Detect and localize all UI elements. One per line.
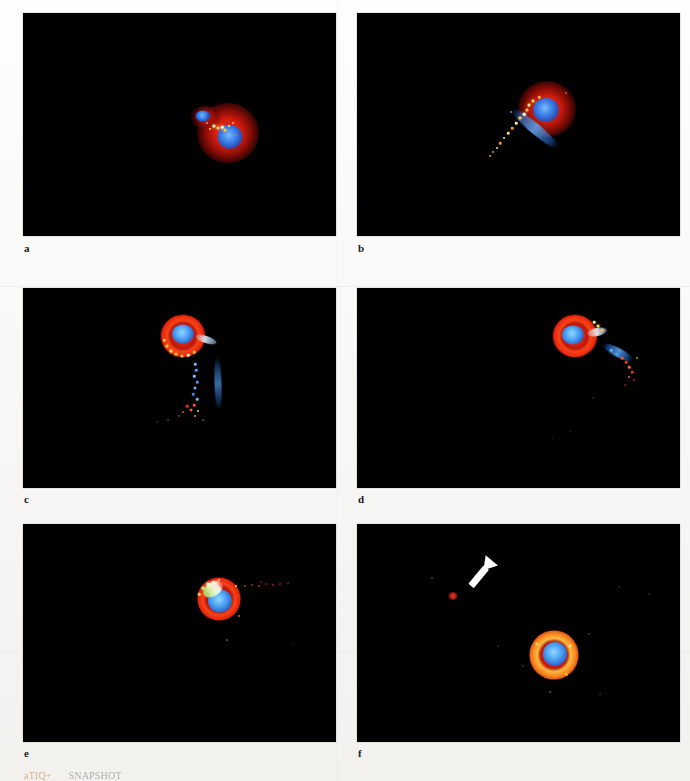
panel-f-field [357, 524, 680, 742]
punctum [489, 155, 491, 157]
punctum [631, 371, 634, 374]
punctum [196, 381, 199, 384]
punctum [592, 397, 594, 399]
punctum [178, 415, 180, 417]
punctum [258, 585, 260, 587]
punctum [194, 387, 197, 390]
panel-a-field [23, 13, 336, 236]
punctum [597, 325, 600, 328]
punctum [526, 109, 529, 112]
punctum [228, 125, 230, 127]
punctum [197, 410, 199, 412]
punctum [507, 132, 510, 135]
punctum [618, 586, 620, 588]
punctum [499, 142, 502, 145]
punctum [167, 419, 169, 421]
panel-e [23, 524, 336, 742]
punctum [190, 409, 193, 412]
arrow-marked-punctum [449, 592, 458, 600]
punctum [279, 583, 281, 585]
caption-rest: SNAPSHOT [68, 770, 121, 781]
punctum [610, 349, 613, 352]
punctum [532, 100, 535, 103]
punctum [538, 96, 541, 99]
punctum [511, 127, 514, 130]
punctum [628, 366, 631, 369]
punctum [588, 633, 590, 635]
punctum [593, 321, 596, 324]
punctum [621, 357, 624, 360]
panel-e-label: e [24, 748, 29, 759]
punctum [202, 419, 204, 421]
panel-c-field [23, 288, 336, 488]
punctum [213, 125, 216, 128]
migration-trail [214, 356, 223, 410]
punctum [186, 405, 189, 408]
punctum [569, 645, 572, 648]
punctum [624, 384, 626, 386]
punctum [244, 585, 246, 587]
punctum [196, 398, 199, 401]
punctum [601, 329, 604, 332]
punctum [232, 122, 234, 124]
nucleus-blue [218, 125, 243, 149]
punctum [163, 339, 166, 342]
punctum [552, 437, 554, 439]
punctum [193, 351, 196, 354]
panel-d [357, 288, 680, 488]
punctum [235, 585, 237, 587]
punctum [519, 117, 522, 120]
punctum [181, 355, 184, 358]
punctum [217, 127, 220, 130]
arrow-annotation [449, 550, 505, 606]
caption-cropped-text: aTIQ+ SNAPSHOT [24, 770, 122, 781]
punctum [221, 126, 224, 129]
punctum [224, 129, 227, 132]
punctum [633, 379, 635, 381]
panel-a [23, 13, 336, 236]
nucleus-blue [562, 326, 584, 345]
nucleus-blue [543, 642, 567, 666]
panel-f [357, 524, 680, 742]
panel-a-label: a [24, 243, 30, 254]
caption-strip: aTIQ+ SNAPSHOT [0, 770, 690, 781]
neighbour-cell [190, 106, 220, 128]
punctum [431, 577, 433, 579]
punctum [628, 376, 630, 378]
nucleus-blue [172, 325, 194, 344]
punctum [193, 375, 196, 378]
punctum [193, 404, 196, 407]
figure-panel-grid: a b [0, 0, 690, 781]
punctum [235, 134, 237, 136]
punctum [187, 354, 190, 357]
punctum [565, 92, 567, 94]
punctum [648, 593, 650, 595]
scan-seam [337, 0, 338, 781]
punctum [515, 122, 518, 125]
punctum [212, 581, 215, 584]
panel-b [357, 13, 680, 236]
punctum [492, 151, 494, 153]
punctum [202, 587, 205, 590]
punctum [156, 421, 158, 423]
punctum [549, 691, 551, 693]
panel-d-field [357, 288, 680, 488]
punctum [182, 411, 184, 413]
punctum [218, 579, 220, 581]
punctum [195, 369, 198, 372]
punctum [251, 584, 253, 586]
punctum [636, 357, 638, 359]
punctum [599, 693, 601, 695]
scan-seam [0, 286, 690, 287]
punctum [175, 353, 178, 356]
punctum [522, 665, 524, 667]
panel-e-field [23, 524, 336, 742]
punctum [565, 673, 568, 676]
punctum [528, 104, 531, 107]
punctum [287, 582, 289, 584]
punctum [625, 361, 628, 364]
panel-c [23, 288, 336, 488]
punctum [503, 137, 505, 139]
panel-b-field [357, 13, 680, 236]
punctum [542, 671, 545, 674]
